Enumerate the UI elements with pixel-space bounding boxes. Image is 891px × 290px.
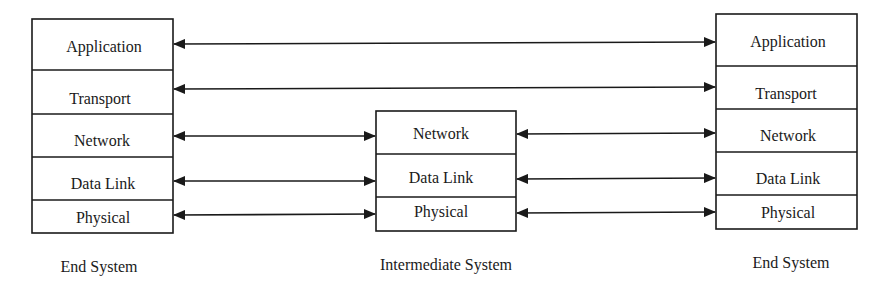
arrow-application-peer: [174, 42, 715, 44]
layer-network: Network: [74, 132, 130, 149]
layer-data-link: Data Link: [756, 170, 820, 187]
layer-physical: Physical: [414, 203, 469, 221]
layer-network: Network: [760, 127, 816, 144]
arrow-physical-middle-right: [517, 212, 715, 213]
caption-right-end-system: End System: [753, 254, 830, 272]
layer-data-link: Data Link: [409, 169, 473, 186]
caption-intermediate-system: Intermediate System: [380, 256, 513, 274]
layer-physical: Physical: [761, 204, 816, 222]
intermediate-system: Network Data Link Physical Intermediate …: [376, 111, 516, 274]
layer-data-link: Data Link: [71, 175, 135, 192]
arrow-physical-left-middle: [174, 214, 375, 215]
arrow-transport-peer: [174, 87, 715, 89]
layer-transport: Transport: [69, 90, 131, 108]
arrow-datalink-middle-right: [517, 178, 715, 179]
caption-left-end-system: End System: [61, 258, 138, 276]
layer-network: Network: [413, 125, 469, 142]
layer-transport: Transport: [755, 85, 817, 103]
left-end-system: Application Transport Network Data Link …: [32, 19, 173, 276]
layer-application: Application: [66, 38, 142, 56]
layer-physical: Physical: [76, 209, 131, 227]
layer-application: Application: [750, 33, 826, 51]
arrow-network-middle-right: [517, 133, 715, 134]
right-end-system: Application Transport Network Data Link …: [716, 14, 857, 272]
protocol-stack-diagram: Application Transport Network Data Link …: [0, 0, 891, 290]
